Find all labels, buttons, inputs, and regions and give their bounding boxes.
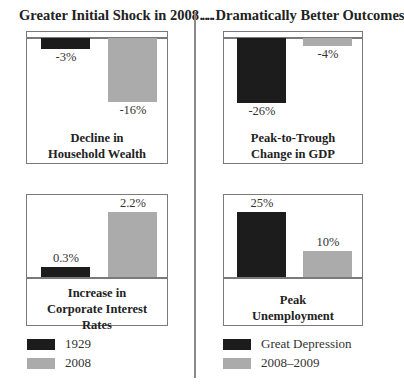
value-2008-household-wealth: -16%	[103, 103, 163, 118]
panel-label-interest-rates: Increase in Corporate Interest Rates	[27, 285, 167, 333]
legend-swatch-light	[27, 358, 55, 369]
value-great-depression-unemployment: 25%	[232, 196, 292, 211]
legend-swatch-dark	[27, 339, 55, 350]
zero-line	[27, 277, 167, 279]
zero-line	[224, 277, 362, 279]
legend-left-2008: 2008	[27, 355, 91, 371]
value-2008-2009-unemployment: 10%	[298, 235, 358, 250]
bar-2008-2009-unemployment	[303, 251, 352, 277]
panel-interest-rates: 0.3% 2.2% Increase in Corporate Interest…	[26, 194, 168, 326]
panel-label-gdp: Peak-to-Trough Change in GDP	[224, 130, 362, 162]
value-1929-interest-rates: 0.3%	[36, 251, 96, 266]
bar-2008-2009-gdp	[303, 38, 352, 46]
legend-right-great-depression: Great Depression	[223, 336, 352, 352]
panel-household-wealth: -3% -16% Decline in Household Wealth	[26, 31, 168, 164]
bar-1929-household-wealth	[41, 38, 90, 49]
right-section-title: …Dramatically Better Outcomes	[201, 7, 404, 24]
legend-swatch-dark	[223, 339, 251, 350]
value-1929-household-wealth: -3%	[36, 50, 96, 65]
bar-2008-household-wealth	[108, 38, 157, 102]
value-2008-2009-gdp: -4%	[298, 47, 358, 62]
left-section-title: Greater Initial Shock in 2008…	[19, 7, 213, 24]
panel-unemployment: 25% 10% Peak Unemployment	[223, 194, 363, 326]
panel-gdp: -26% -4% Peak-to-Trough Change in GDP	[223, 31, 363, 164]
legend-left-1929: 1929	[27, 336, 91, 352]
bar-2008-interest-rates	[108, 212, 157, 277]
value-great-depression-gdp: -26%	[232, 104, 292, 119]
legend-right-2008-2009: 2008–2009	[223, 355, 320, 371]
bar-great-depression-unemployment	[237, 212, 286, 277]
panel-label-unemployment: Peak Unemployment	[224, 292, 362, 324]
panel-label-household-wealth: Decline in Household Wealth	[27, 130, 167, 162]
legend-swatch-light	[223, 358, 251, 369]
value-2008-interest-rates: 2.2%	[103, 196, 163, 211]
bar-1929-interest-rates	[41, 267, 90, 277]
section-divider	[194, 12, 196, 378]
bar-great-depression-gdp	[237, 38, 286, 103]
